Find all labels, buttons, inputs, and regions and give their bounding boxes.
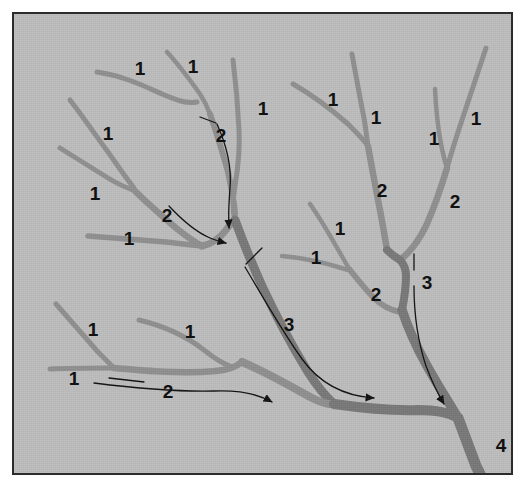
stream-order-label-2: 2 bbox=[216, 126, 227, 145]
stream-order-label-1: 1 bbox=[471, 109, 482, 128]
stream-trunk-order3-mid bbox=[334, 404, 458, 418]
stream-order-label-1: 1 bbox=[69, 369, 80, 388]
stream-order2-ne-right bbox=[400, 168, 447, 260]
stream-order-label-2: 2 bbox=[450, 192, 461, 211]
stream-trunk-order4-outlet bbox=[458, 418, 480, 473]
stream-order-label-1: 1 bbox=[371, 108, 382, 127]
stream-order3-right-upper bbox=[387, 250, 406, 310]
figure-root: 111211211112311112211234 bbox=[0, 0, 525, 490]
stream-network-drawing bbox=[14, 14, 511, 473]
stream-order3-right-lower bbox=[402, 310, 458, 418]
stream-branches-upper-left bbox=[60, 52, 239, 246]
stream-order-diagram: 111211211112311112211234 bbox=[12, 12, 513, 475]
stream-order-label-1: 1 bbox=[188, 57, 199, 76]
flow-direction-arrows bbox=[94, 117, 444, 404]
stream-order3-mid bbox=[334, 404, 458, 418]
stream-order-label-1: 1 bbox=[135, 59, 146, 78]
stream-order-label-1: 1 bbox=[124, 229, 135, 248]
flow-tick-order2-lower bbox=[109, 378, 144, 382]
stream-order-label-1: 1 bbox=[103, 124, 114, 143]
stream-order-label-1: 1 bbox=[328, 90, 339, 109]
stream-order-label-4: 4 bbox=[496, 436, 507, 455]
stream-order-label-2: 2 bbox=[162, 206, 173, 225]
stream-order-label-1: 1 bbox=[88, 320, 99, 339]
stream-order1-north-long bbox=[233, 60, 239, 220]
stream-order-label-2: 2 bbox=[163, 382, 174, 401]
stream-order-label-2: 2 bbox=[377, 181, 388, 200]
stream-order4 bbox=[458, 418, 480, 473]
stream-order-label-1: 1 bbox=[258, 99, 269, 118]
stream-order-label-1: 1 bbox=[335, 219, 346, 238]
stream-order1-nw-a bbox=[97, 72, 197, 103]
flow-arrow-southwest bbox=[94, 383, 272, 402]
stream-order1-sw-a bbox=[56, 304, 114, 368]
stream-order2-west-lower bbox=[202, 220, 235, 246]
stream-order-label-3: 3 bbox=[422, 273, 433, 292]
stream-order-label-1: 1 bbox=[90, 184, 101, 203]
stream-order-label-2: 2 bbox=[371, 285, 382, 304]
stream-order-label-1: 1 bbox=[429, 129, 440, 148]
stream-order-label-1: 1 bbox=[311, 248, 322, 267]
stream-order-label-3: 3 bbox=[284, 315, 295, 334]
stream-order1-sw-b bbox=[50, 368, 114, 369]
stream-order-label-1: 1 bbox=[185, 322, 196, 341]
